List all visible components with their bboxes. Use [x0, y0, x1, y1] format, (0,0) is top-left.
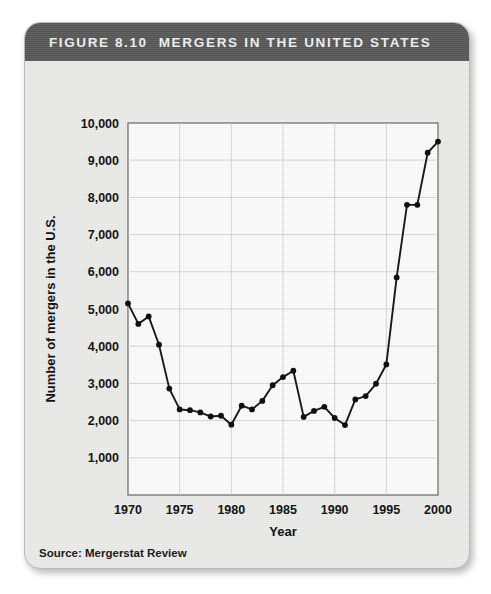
figure-card: FIGURE 8.10MERGERS IN THE UNITED STATES … — [24, 22, 470, 569]
data-point-marker — [311, 408, 317, 414]
data-point-marker — [404, 202, 410, 208]
x-axis-tick-label: 1970 — [114, 503, 142, 517]
figure-number-label: FIGURE 8.10 — [49, 35, 148, 50]
x-axis-tick-label: 2000 — [424, 503, 452, 517]
y-axis-tick-label: 10,000 — [81, 117, 119, 131]
data-point-marker — [177, 407, 183, 413]
x-axis-tick-label: 1990 — [321, 503, 349, 517]
data-point-marker — [301, 414, 307, 420]
data-point-marker — [425, 150, 431, 156]
x-axis-tick-labels: 1970197519801985199019952000 — [114, 503, 452, 517]
x-axis-tick-label: 1980 — [217, 503, 245, 517]
mergers-line-chart: 1,0002,0003,0004,0005,0006,0007,0008,000… — [25, 61, 469, 568]
y-axis-tick-label: 1,000 — [88, 451, 119, 465]
data-point-marker — [187, 407, 193, 413]
data-point-marker — [373, 381, 379, 387]
data-point-marker — [197, 410, 203, 416]
x-axis-tick-label: 1985 — [269, 503, 297, 517]
y-axis-tick-label: 3,000 — [88, 377, 119, 391]
data-point-marker — [394, 274, 400, 280]
data-point-marker — [342, 422, 348, 428]
data-point-marker — [352, 397, 358, 403]
y-axis-tick-label: 2,000 — [88, 414, 119, 428]
data-point-marker — [383, 362, 389, 368]
data-point-marker — [156, 342, 162, 348]
y-axis-tick-label: 8,000 — [88, 191, 119, 205]
data-point-marker — [363, 393, 369, 399]
data-point-marker — [166, 386, 172, 392]
data-point-marker — [208, 414, 214, 420]
data-point-marker — [228, 422, 234, 428]
x-axis-tick-label: 1995 — [372, 503, 400, 517]
y-axis-tick-label: 4,000 — [88, 340, 119, 354]
y-axis-tick-labels: 1,0002,0003,0004,0005,0006,0007,0008,000… — [81, 117, 119, 466]
data-point-marker — [290, 368, 296, 374]
figure-header-text: FIGURE 8.10MERGERS IN THE UNITED STATES — [49, 35, 432, 50]
data-point-marker — [435, 139, 441, 145]
data-point-marker — [218, 413, 224, 419]
x-axis-tick-label: 1975 — [166, 503, 194, 517]
y-axis-title: Number of mergers in the U.S. — [43, 215, 58, 402]
data-point-marker — [332, 415, 338, 421]
y-axis-tick-label: 5,000 — [88, 303, 119, 317]
data-point-marker — [239, 403, 245, 409]
source-note: Source: Mergerstat Review — [39, 547, 187, 559]
x-axis-title: Year — [269, 524, 296, 539]
data-point-marker — [280, 374, 286, 380]
figure-header-bar: FIGURE 8.10MERGERS IN THE UNITED STATES — [25, 23, 469, 61]
data-point-marker — [135, 321, 141, 327]
data-point-marker — [270, 382, 276, 388]
figure-title: MERGERS IN THE UNITED STATES — [159, 35, 432, 50]
y-axis-tick-label: 6,000 — [88, 265, 119, 279]
data-point-marker — [414, 202, 420, 208]
data-point-marker — [321, 404, 327, 410]
data-point-marker — [249, 407, 255, 413]
plot-area: 1,0002,0003,0004,0005,0006,0007,0008,000… — [25, 61, 469, 568]
data-point-marker — [146, 314, 152, 320]
data-point-marker — [259, 398, 265, 404]
y-axis-tick-label: 9,000 — [88, 154, 119, 168]
data-point-marker — [125, 301, 131, 307]
y-axis-tick-label: 7,000 — [88, 228, 119, 242]
